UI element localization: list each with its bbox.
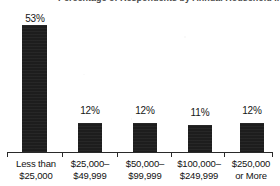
x-axis-labels: Less than $25,000 $25,000– $49,999 $50,0… <box>0 158 280 186</box>
axis-tick-4 <box>224 152 225 157</box>
x-label-line1: Less than <box>16 158 56 169</box>
value-label-250000-or-more: 12% <box>231 105 273 116</box>
x-label-line1: $100,000– <box>177 158 221 169</box>
axis-tick-0 <box>7 152 8 157</box>
value-label-25000-49999: 12% <box>69 105 111 116</box>
bar-less-than-25000 <box>22 25 47 152</box>
x-label-line2: $25,000 <box>5 170 67 182</box>
bar-25000-49999 <box>78 123 102 152</box>
axis-tick-3 <box>171 152 172 157</box>
value-label-less-than-25000: 53% <box>14 13 56 24</box>
x-label-line1: $50,000– <box>126 158 164 169</box>
x-label-line2: or More <box>222 170 280 182</box>
value-label-100000-249999: 11% <box>179 107 221 118</box>
axis-tick-5 <box>272 152 273 157</box>
axis-tick-1 <box>62 152 63 157</box>
bar-100000-249999 <box>188 125 212 152</box>
x-label-less-than-25000: Less than $25,000 <box>5 158 67 182</box>
x-label-line1: $250,000 <box>232 158 270 169</box>
plot-area: 53% 12% 12% 11% 12% <box>0 0 280 152</box>
x-label-25000-49999: $25,000– $49,999 <box>59 158 121 182</box>
x-axis-line <box>7 152 273 153</box>
value-label-50000-99999: 12% <box>124 105 166 116</box>
x-label-line2: $49,999 <box>59 170 121 182</box>
bar-50000-99999 <box>133 123 157 152</box>
x-label-250000-or-more: $250,000 or More <box>222 158 280 182</box>
bar-250000-or-more <box>240 123 264 152</box>
axis-tick-2 <box>117 152 118 157</box>
x-label-line1: $25,000– <box>71 158 109 169</box>
bar-chart: Percentage of Respondents by Annual Hous… <box>0 0 280 186</box>
